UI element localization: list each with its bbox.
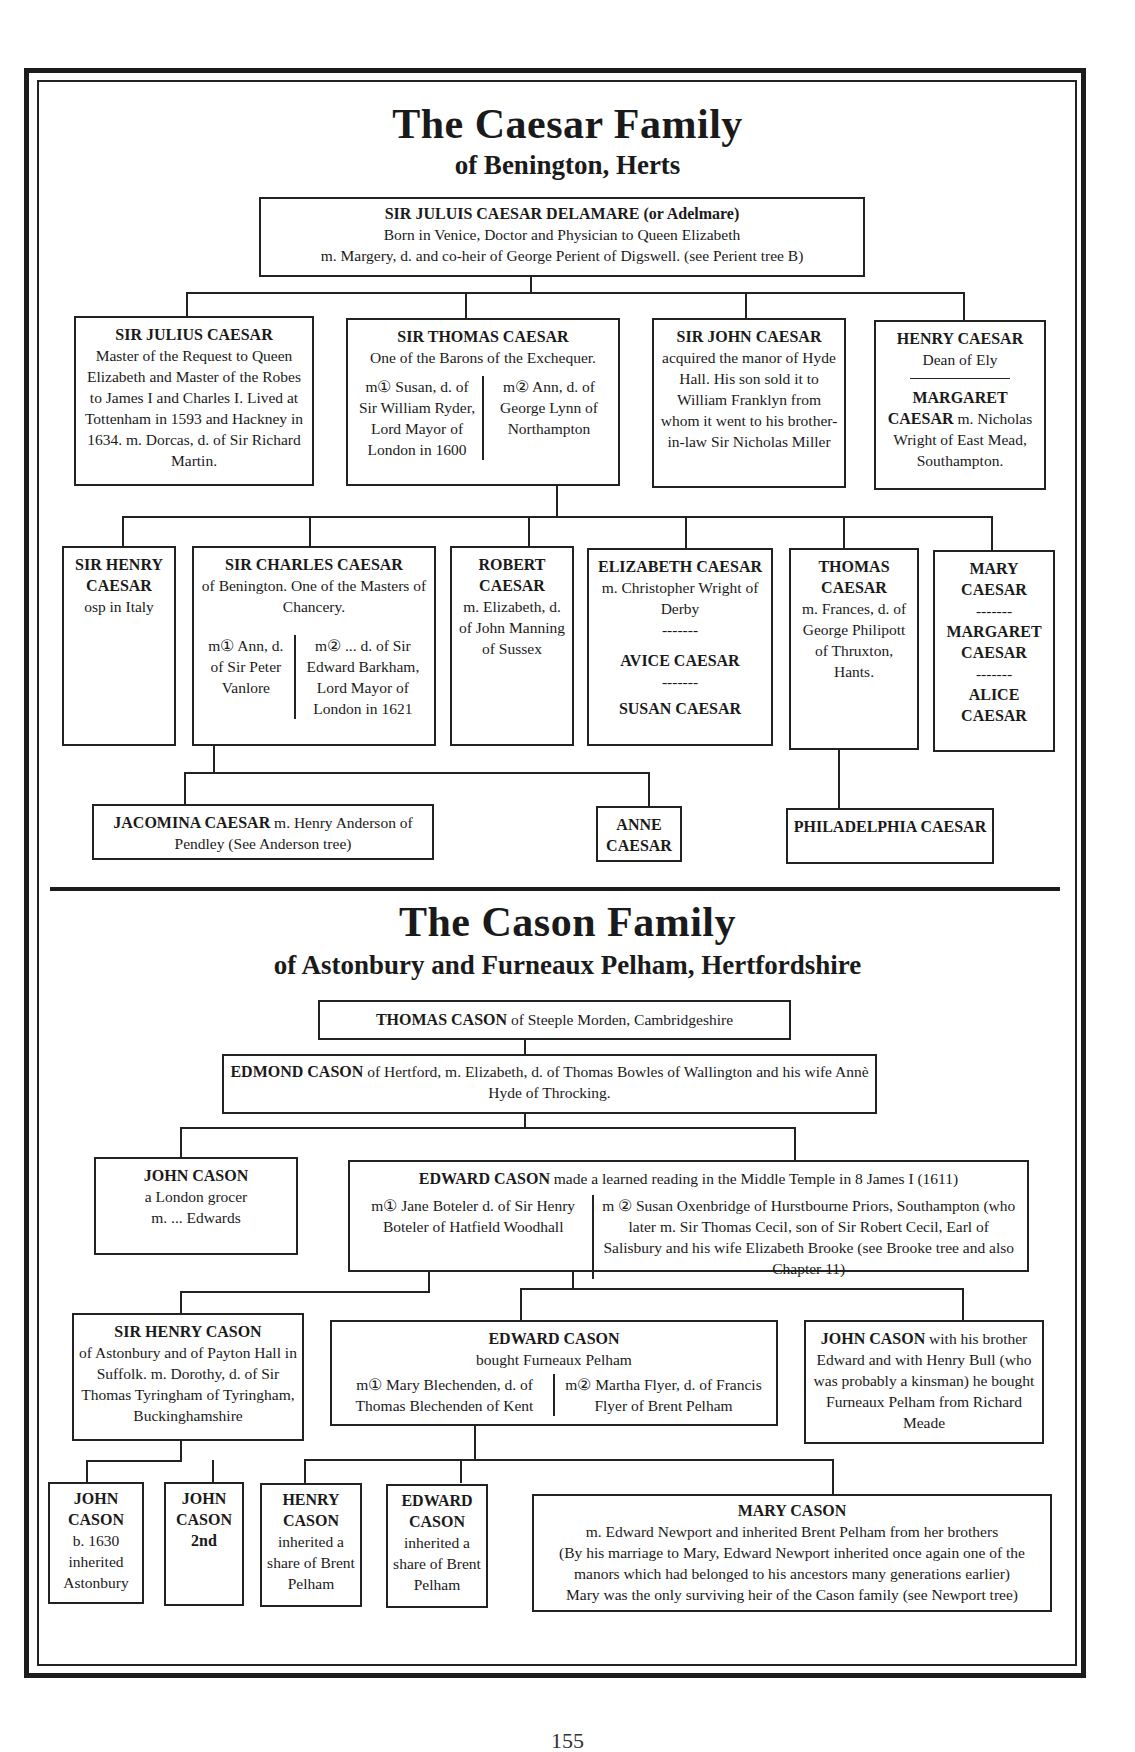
caesar-elizabeth-text: m. Christopher Wright of Derby (593, 577, 767, 619)
cason-edward1-box: EDWARD CASON made a learned reading in t… (348, 1160, 1029, 1272)
caesar-charles-text: of Benington. One of the Masters of Chan… (198, 575, 430, 617)
caesar-henry-box: HENRY CAESAR Dean of Ely MARGARET CAESAR… (874, 320, 1046, 490)
cason-john1-name: JOHN CASON (100, 1165, 292, 1186)
caesar-thomas-name: SIR THOMAS CAESAR (352, 326, 614, 347)
cason-edward3-name: EDWARD CASON (392, 1490, 482, 1532)
cason-john-b-text: 2nd (170, 1530, 238, 1551)
caesar-julius-box: SIR JULIUS CAESAR Master of the Request … (74, 316, 314, 486)
cason-john-a-name: JOHN CASON (54, 1488, 138, 1530)
caesar-john-box: SIR JOHN CAESAR acquired the manor of Hy… (652, 318, 846, 488)
page-number: 155 (0, 1728, 1135, 1752)
separator (910, 378, 1010, 379)
cason-henry-text: of Astonbury and of Payton Hall in Suffo… (78, 1342, 298, 1426)
caesar-thomas-text: One of the Barons of the Exchequer. (352, 347, 614, 368)
caesar-anne-name: ANNE CAESAR (602, 814, 676, 856)
cason-john-a-text: b. 1630 inherited Astonbury (54, 1530, 138, 1593)
caesar-julius-name: SIR JULIUS CAESAR (80, 324, 308, 345)
cason-thomas-name: THOMAS CASON (376, 1011, 507, 1028)
caesar-root-name: SIR JULUIS CAESAR DELAMARE (or Adelmare) (265, 203, 859, 224)
separator: ------- (939, 663, 1049, 684)
caesar-jacomina-name: JACOMINA CAESAR (113, 814, 270, 831)
caesar-charles-box: SIR CHARLES CAESAR of Benington. One of … (192, 546, 436, 746)
caesar-julius-text: Master of the Request to Queen Elizabeth… (80, 345, 308, 471)
caesar-subtitle: of Benington, Herts (0, 150, 1135, 181)
caesar-elizabeth-name: ELIZABETH CAESAR (593, 556, 767, 577)
caesar-john-name: SIR JOHN CAESAR (658, 326, 840, 347)
caesar-charles-name: SIR CHARLES CAESAR (198, 554, 430, 575)
caesar-alice-name: ALICE CAESAR (939, 684, 1049, 726)
cason-john2-name: JOHN CASON (821, 1330, 925, 1347)
caesar-thomas-m1: m① Susan, d. of Sir William Ryder, Lord … (352, 376, 484, 460)
caesar-root-line2: m. Margery, d. and co-heir of George Per… (265, 245, 859, 266)
cason-edward1-m2: m ② Susan Oxenbridge of Hurstbourne Prio… (594, 1195, 1023, 1279)
caesar-mary-name: MARY CAESAR (939, 558, 1049, 600)
cason-thomas-box: THOMAS CASON of Steeple Morden, Cambridg… (318, 1000, 791, 1040)
caesar-robert-text: m. Elizabeth, d. of John Manning of Suss… (456, 596, 568, 659)
caesar-avice-name: AVICE CAESAR (593, 650, 767, 671)
caesar-root-box: SIR JULUIS CAESAR DELAMARE (or Adelmare)… (259, 197, 865, 277)
cason-john-a-box: JOHN CASON b. 1630 inherited Astonbury (48, 1482, 144, 1604)
cason-edward3-text: inherited a share of Brent Pelham (392, 1532, 482, 1595)
caesar-elizabeth-box: ELIZABETH CAESAR m. Christopher Wright o… (587, 548, 773, 746)
cason-subtitle: of Astonbury and Furneaux Pelham, Hertfo… (0, 950, 1135, 981)
cason-john1-box: JOHN CASON a London grocer m. ... Edward… (94, 1157, 298, 1255)
cason-mary-line2: (By his marriage to Mary, Edward Newport… (538, 1542, 1046, 1584)
caesar-root-line1: Born in Venice, Doctor and Physician to … (265, 224, 859, 245)
cason-mary-line3: Mary was the only surviving heir of the … (538, 1584, 1046, 1605)
caesar-thomas2-text: m. Frances, d. of George Philipott of Th… (795, 598, 913, 682)
caesar-henry-name: HENRY CAESAR (880, 328, 1040, 349)
caesar-philadelphia-name: PHILADELPHIA CAESAR (792, 816, 988, 837)
separator: ------- (593, 619, 767, 640)
caesar-sir-henry-name: SIR HENRY CAESAR (68, 554, 170, 596)
caesar-anne-box: ANNE CAESAR (596, 806, 682, 862)
section-divider (50, 887, 1060, 891)
cason-mary-name: MARY CASON (538, 1500, 1046, 1521)
caesar-title: The Caesar Family (0, 100, 1135, 148)
cason-edmond-name: EDMOND CASON (230, 1063, 363, 1080)
caesar-jacomina-box: JACOMINA CAESAR m. Henry Anderson of Pen… (92, 804, 434, 860)
caesar-robert-box: ROBERT CAESAR m. Elizabeth, d. of John M… (450, 546, 574, 746)
cason-edward2-m2: m② Martha Flyer, d. of Francis Flyer of … (555, 1374, 772, 1416)
cason-edward1-text: made a learned reading in the Middle Tem… (554, 1170, 958, 1187)
cason-edward2-text: bought Furneaux Pelham (336, 1349, 772, 1370)
cason-john2-box: JOHN CASON with his brother Edward and w… (804, 1320, 1044, 1444)
caesar-thomas-m2: m② Ann, d. of George Lynn of Northampton (484, 376, 614, 460)
cason-edward2-box: EDWARD CASON bought Furneaux Pelham m① M… (330, 1320, 778, 1426)
caesar-philadelphia-box: PHILADELPHIA CAESAR (786, 808, 994, 864)
caesar-john-text: acquired the manor of Hyde Hall. His son… (658, 347, 840, 452)
caesar-mary-box: MARY CAESAR ------- MARGARET CAESAR ----… (933, 550, 1055, 752)
cason-edward2-name: EDWARD CASON (336, 1328, 772, 1349)
cason-mary-line1: m. Edward Newport and inherited Brent Pe… (538, 1521, 1046, 1542)
caesar-charles-m1: m① Ann, d. of Sir Peter Vanlore (198, 635, 296, 719)
cason-edward1-m1: m① Jane Boteler d. of Sir Henry Boteler … (354, 1195, 594, 1279)
cason-john-b-name: JOHN CASON (170, 1488, 238, 1530)
caesar-henry-text: Dean of Ely (880, 349, 1040, 370)
cason-edmond-box: EDMOND CASON of Hertford, m. Elizabeth, … (222, 1054, 877, 1114)
caesar-charles-m2: m② ... d. of Sir Edward Barkham, Lord Ma… (296, 635, 430, 719)
cason-title: The Cason Family (0, 898, 1135, 946)
caesar-thomas2-box: THOMAS CAESAR m. Frances, d. of George P… (789, 548, 919, 750)
cason-edmond-text: of Hertford, m. Elizabeth, d. of Thomas … (367, 1063, 868, 1101)
cason-mary-box: MARY CASON m. Edward Newport and inherit… (532, 1494, 1052, 1612)
cason-edward1-name: EDWARD CASON (419, 1170, 550, 1187)
cason-henry-name: SIR HENRY CASON (78, 1321, 298, 1342)
cason-henry-box: SIR HENRY CASON of Astonbury and of Payt… (72, 1313, 304, 1441)
cason-thomas-text: of Steeple Morden, Cambridgeshire (511, 1011, 733, 1028)
separator: ------- (593, 671, 767, 692)
cason-john1-text2: m. ... Edwards (100, 1207, 292, 1228)
caesar-thomas2-name: THOMAS CAESAR (795, 556, 913, 598)
cason-edward3-box: EDWARD CASON inherited a share of Brent … (386, 1484, 488, 1608)
caesar-sir-henry-box: SIR HENRY CAESAR osp in Italy (62, 546, 176, 746)
cason-john-b-box: JOHN CASON 2nd (164, 1482, 244, 1606)
cason-john1-text1: a London grocer (100, 1186, 292, 1207)
cason-henry2-box: HENRY CASON inherited a share of Brent P… (260, 1483, 362, 1607)
cason-henry2-name: HENRY CASON (266, 1489, 356, 1531)
caesar-susan-name: SUSAN CAESAR (593, 698, 767, 719)
caesar-margaret2-name: MARGARET CAESAR (939, 621, 1049, 663)
caesar-sir-henry-text: osp in Italy (68, 596, 170, 617)
cason-henry2-text: inherited a share of Brent Pelham (266, 1531, 356, 1594)
caesar-thomas-box: SIR THOMAS CAESAR One of the Barons of t… (346, 318, 620, 486)
cason-edward2-m1: m① Mary Blechenden, d. of Thomas Blechen… (336, 1374, 555, 1416)
caesar-robert-name: ROBERT CAESAR (456, 554, 568, 596)
separator: ------- (939, 600, 1049, 621)
